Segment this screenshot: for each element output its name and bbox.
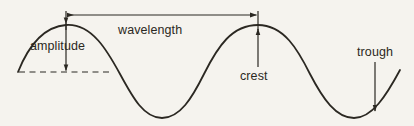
- trough-label: trough: [357, 45, 393, 59]
- wave-anatomy-diagram: amplitude wavelength crest trough: [0, 0, 414, 126]
- crest-label: crest: [240, 69, 268, 83]
- wavelength-label: wavelength: [118, 23, 182, 37]
- wave-diagram-canvas: [0, 0, 414, 126]
- amplitude-label: amplitude: [30, 39, 85, 53]
